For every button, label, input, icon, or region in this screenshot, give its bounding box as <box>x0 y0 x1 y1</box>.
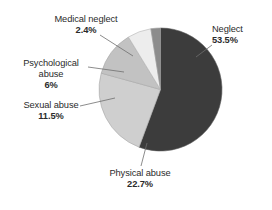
slice-label-physical-abuse: Physical abuse 22.7% <box>88 168 192 190</box>
slice-label-physical-abuse-value: 22.7% <box>88 179 192 190</box>
slice-label-medical-neglect: Medical neglect 2.4% <box>38 14 134 36</box>
slice-label-neglect: Neglect 53.5% <box>212 24 270 46</box>
slice-label-psychological-abuse: Psychological abuse 6% <box>8 58 94 92</box>
slice-label-neglect-value: 53.5% <box>212 35 270 46</box>
slice-label-sexual-abuse-name: Sexual abuse <box>8 100 94 111</box>
slice-label-medical-neglect-name: Medical neglect <box>38 14 134 25</box>
slice-label-sexual-abuse-value: 11.5% <box>8 111 94 122</box>
slice-label-psychological-abuse-name-line1: Psychological <box>8 58 94 69</box>
slice-label-psychological-abuse-name-line2: abuse <box>8 69 94 80</box>
slice-label-medical-neglect-value: 2.4% <box>38 25 134 36</box>
slice-label-psychological-abuse-value: 6% <box>8 80 94 91</box>
slice-label-sexual-abuse: Sexual abuse 11.5% <box>8 100 94 122</box>
slice-label-neglect-name: Neglect <box>212 24 270 35</box>
slice-label-physical-abuse-name: Physical abuse <box>88 168 192 179</box>
pie-chart: Medical neglect 2.4% Psychological abuse… <box>0 0 272 210</box>
